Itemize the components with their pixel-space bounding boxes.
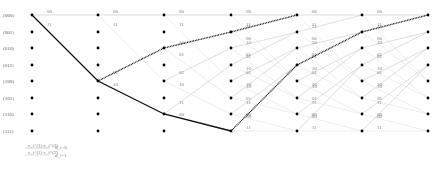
edge-output-label: 10 [246,84,252,89]
trellis-node [97,80,100,83]
trellis-edge [362,81,428,114]
trellis-edge [164,81,231,114]
edge-output-label: 11 [179,100,184,105]
trellis-node [163,31,166,34]
trellis-node [97,14,100,17]
trellis-node [230,97,233,100]
trellis-node [97,31,100,34]
state-labels: (000)(001)(010)(011)(100)(101)(110)(111) [3,13,14,134]
trellis-edge [362,32,428,48]
edge-output-label: 11 [312,100,317,105]
trellis-edge [231,32,297,81]
trellis-node [230,64,233,67]
trellis-edge [297,114,362,131]
trellis-node [31,113,34,116]
trellis-node [31,64,34,67]
trellis-edge [231,32,297,48]
trellis-node [230,47,233,50]
trellis-edge [297,15,362,32]
trellis-node [97,64,100,67]
trellis-edge [362,32,428,65]
edge-output-label: 10 [312,40,318,45]
edge-output-label: 01 [179,52,185,57]
trellis-node [31,130,34,133]
trellis-node [163,14,166,17]
trellis-node [31,80,34,83]
trellis-node [163,130,166,133]
trellis-node [361,31,364,34]
state-label: (011) [3,63,14,68]
trellis-edge [297,48,362,81]
trellis-edge [98,15,164,81]
state-label: (000) [3,13,14,18]
trellis-edge [164,15,231,81]
edge-output-label: 00 [377,114,383,119]
trellis-node [97,130,100,133]
trellis-node [296,64,299,67]
trellis-node [230,14,233,17]
trellis-edge [231,15,297,81]
trellis-node [361,130,364,133]
trellis-node [361,14,364,17]
trellis-node [296,97,299,100]
trellis-node [427,47,430,50]
trellis-edge [362,65,428,131]
trellis-node [163,80,166,83]
trellis-edge [297,32,362,81]
trellis-edge [362,15,428,81]
trellis-node [230,80,233,83]
trellis-node [361,97,364,100]
trellis-node [427,97,430,100]
legend-symbol-d1: c_i^(1) c_i^(2) [28,150,58,155]
trellis-edge-labels: 0011001101100011100101101100001111001001… [47,9,383,130]
edge-output-label: 00 [113,9,119,14]
edge-output-label: 11 [377,100,382,105]
trellis-node [97,113,100,116]
trellis-node [31,14,34,17]
trellis-edge [362,65,428,98]
trellis-edge [297,32,362,48]
trellis-node [361,80,364,83]
edge-output-label: 00 [312,9,318,14]
state-label: (110) [3,112,14,117]
trellis-edge [362,32,428,81]
trellis-edge [362,98,428,114]
edge-output-label: 10 [312,84,318,89]
trellis-node [296,47,299,50]
trellis-node [361,64,364,67]
edge-output-label: 00 [312,114,318,119]
trellis-node [163,64,166,67]
trellis-node [230,130,233,133]
trellis-edge [297,98,362,114]
state-label: (010) [3,46,14,51]
trellis-node [296,31,299,34]
trellis-edge [362,114,428,131]
edge-output-label: 11 [113,22,118,27]
edge-output-label: 01 [377,70,383,75]
trellis-node [361,47,364,50]
edge-output-label: 11 [312,125,317,130]
trellis-node [230,113,233,116]
trellis-node [230,31,233,34]
trellis-node [361,113,364,116]
edge-output-label: 11 [179,22,184,27]
trellis-node [163,47,166,50]
trellis-edge [231,65,297,98]
edge-output-label: 10 [377,40,383,45]
trellis-node [31,31,34,34]
edge-output-label: 11 [47,22,52,27]
trellis-node [427,64,430,67]
trellis-edge [164,32,231,48]
edge-output-label: 11 [246,100,251,105]
edge-output-label: 11 [246,125,251,130]
trellis-node [427,31,430,34]
legend-symbol-d0: c_i^(1) c_i^(2) [28,143,58,148]
trellis-edge [362,65,428,114]
edge-output-label: 00 [246,9,252,14]
trellis-node [427,130,430,133]
edge-output-label: 01 [246,54,252,59]
trellis-edge [164,65,231,114]
trellis-node [31,97,34,100]
bold-survivor-path [32,15,231,131]
edge-output-label: 10 [113,82,119,87]
